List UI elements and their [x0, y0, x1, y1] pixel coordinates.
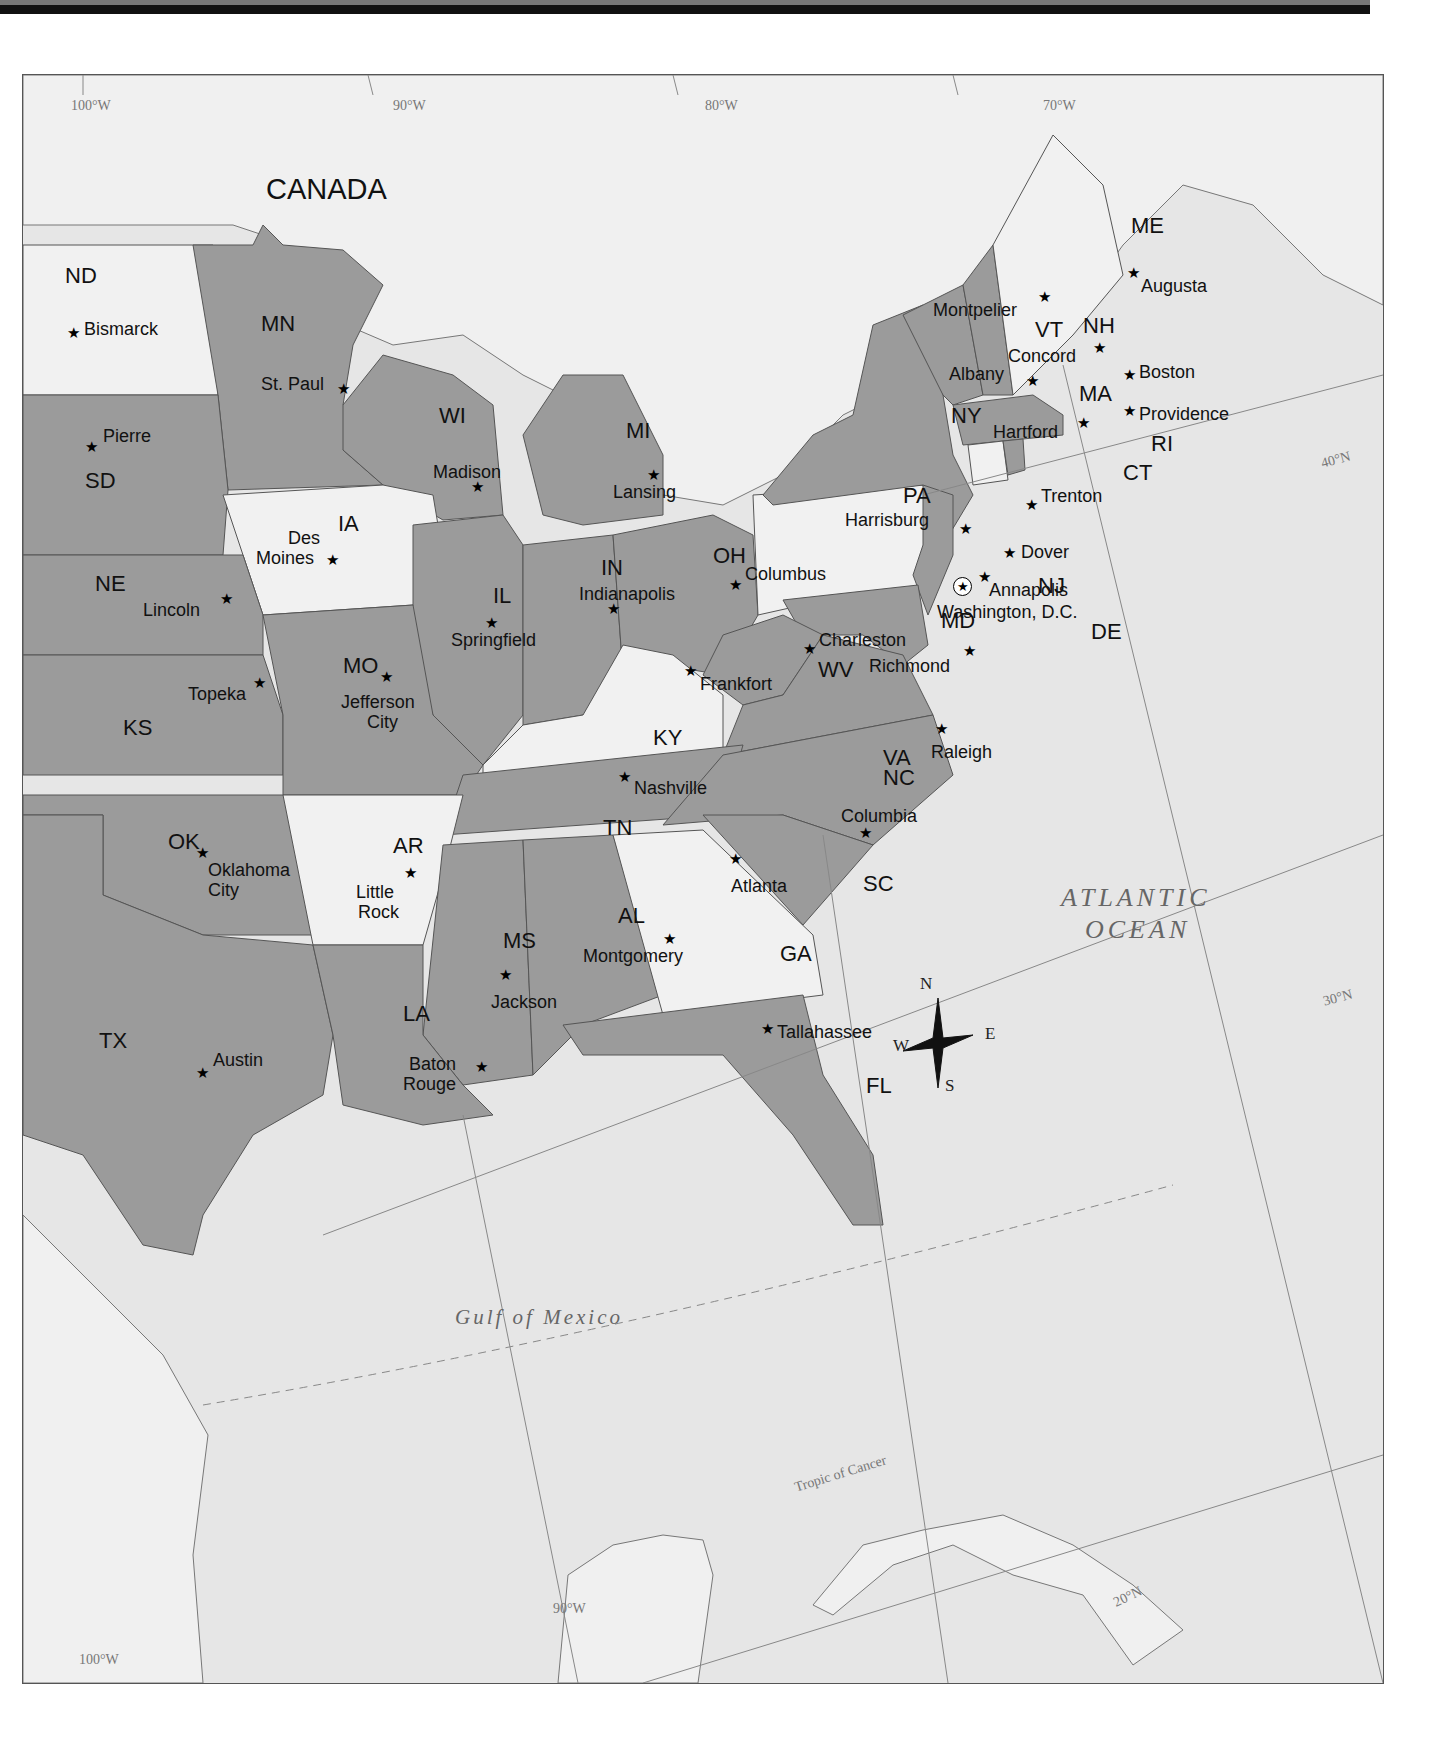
capital-star-icon: ★ [684, 663, 697, 678]
capital-star-icon: ★ [196, 845, 209, 860]
state-wi: WI [439, 405, 466, 427]
capital-jackson: Jackson [491, 993, 557, 1011]
capital-star-icon: ★ [1003, 545, 1016, 560]
capital-springfield: Springfield [451, 631, 536, 649]
state-il: IL [493, 585, 511, 607]
capital-raleigh: Raleigh [931, 743, 992, 761]
capital-star-icon: ★ [67, 325, 80, 340]
state-nc: NC [883, 767, 915, 789]
capital-indianapolis: Indianapolis [579, 585, 675, 603]
capital-okc-2: City [208, 881, 239, 899]
capital-columbus: Columbus [745, 565, 826, 583]
capital-baton-rouge-1: Baton [409, 1055, 456, 1073]
state-ri: RI [1151, 433, 1173, 455]
state-mn: MN [261, 313, 295, 335]
capital-star-icon: ★ [499, 967, 512, 982]
capital-augusta: Augusta [1141, 277, 1207, 295]
capital-annapolis: Annapolis [989, 581, 1068, 599]
state-la: LA [403, 1003, 430, 1025]
state-pa: PA [903, 485, 931, 507]
national-capital-icon: ★ [953, 577, 972, 596]
capital-star-icon: ★ [1025, 497, 1038, 512]
state-al: AL [618, 905, 645, 927]
state-mi: MI [626, 420, 650, 442]
capital-star-icon: ★ [1123, 367, 1136, 382]
state-oh: OH [713, 545, 746, 567]
capital-austin: Austin [213, 1051, 263, 1069]
lon-90w-label: 90°W [393, 99, 426, 113]
capital-boston: Boston [1139, 363, 1195, 381]
capital-richmond: Richmond [869, 657, 950, 675]
capital-lansing: Lansing [613, 483, 676, 501]
state-in: IN [601, 557, 623, 579]
capital-st-paul: St. Paul [261, 375, 324, 393]
compass-south: S [945, 1077, 954, 1094]
capital-hartford: Hartford [993, 423, 1058, 441]
state-de: DE [1091, 621, 1122, 643]
lon-100w-label: 100°W [71, 99, 111, 113]
capital-jefferson-1: Jefferson [341, 693, 415, 711]
capital-frankfort: Frankfort [700, 675, 772, 693]
capital-baton-rouge-2: Rouge [403, 1075, 456, 1093]
capital-tallahassee: Tallahassee [777, 1023, 872, 1041]
capital-harrisburg: Harrisburg [845, 511, 929, 529]
capital-star-icon: ★ [1038, 289, 1051, 304]
capital-star-icon: ★ [859, 825, 872, 840]
capital-bismarck: Bismarck [84, 320, 158, 338]
capital-pierre: Pierre [103, 427, 151, 445]
capital-star-icon: ★ [959, 521, 972, 536]
capital-madison: Madison [433, 463, 501, 481]
state-sc: SC [863, 873, 894, 895]
state-fl: FL [866, 1075, 892, 1097]
capital-dover: Dover [1021, 543, 1069, 561]
capital-star-icon: ★ [618, 769, 631, 784]
state-mo: MO [343, 655, 378, 677]
capital-star-icon: ★ [485, 615, 498, 630]
state-ms: MS [503, 930, 536, 952]
country-label-canada: CANADA [266, 175, 387, 204]
state-ky: KY [653, 727, 682, 749]
compass-east: E [985, 1025, 995, 1042]
capital-topeka: Topeka [188, 685, 246, 703]
capital-star-icon: ★ [963, 643, 976, 658]
state-ne: NE [95, 573, 126, 595]
capital-columbia: Columbia [841, 807, 917, 825]
capital-washington-dc: Washington, D.C. [937, 603, 1077, 621]
capital-star-icon: ★ [337, 381, 350, 396]
capital-montgomery: Montgomery [583, 947, 683, 965]
map-frame: CANADA ATLANTIC OCEAN Gulf of Mexico Tro… [22, 74, 1384, 1684]
capital-star-icon: ★ [729, 577, 742, 592]
gulf-of-mexico-label: Gulf of Mexico [455, 1307, 623, 1328]
atlantic-ocean-line2: OCEAN [1085, 917, 1190, 943]
capital-star-icon: ★ [663, 931, 676, 946]
capital-star-icon: ★ [1123, 403, 1136, 418]
capital-star-icon: ★ [1026, 373, 1039, 388]
capital-star-icon: ★ [253, 675, 266, 690]
capital-montpelier: Montpelier [933, 301, 1017, 319]
capital-des-moines-1: Des [288, 529, 320, 547]
capital-lincoln: Lincoln [143, 601, 200, 619]
capital-star-icon: ★ [220, 591, 233, 606]
capital-albany: Albany [949, 365, 1004, 383]
lon-100w-bottom-label: 100°W [79, 1653, 119, 1667]
capital-atlanta: Atlanta [731, 877, 787, 895]
compass-west: W [893, 1037, 909, 1054]
state-ks: KS [123, 717, 152, 739]
top-border-shade [0, 0, 1370, 5]
capital-star-icon: ★ [85, 439, 98, 454]
state-wv: WV [818, 659, 853, 681]
state-sd: SD [85, 470, 116, 492]
capital-star-icon: ★ [729, 851, 742, 866]
capital-star-icon: ★ [935, 721, 948, 736]
state-vt: VT [1035, 319, 1063, 341]
state-ia: IA [338, 513, 359, 535]
capital-star-icon: ★ [404, 865, 417, 880]
capital-concord: Concord [1008, 347, 1076, 365]
state-ct: CT [1123, 462, 1152, 484]
capital-star-icon: ★ [647, 467, 660, 482]
state-me: ME [1131, 215, 1164, 237]
capital-nashville: Nashville [634, 779, 707, 797]
capital-little-rock-1: Little [356, 883, 394, 901]
capital-des-moines-2: Moines [256, 549, 314, 567]
capital-charleston: Charleston [819, 631, 906, 649]
